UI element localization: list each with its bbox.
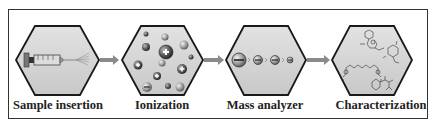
step-ionization-hexagon [122, 26, 203, 95]
step-mass-analyzer-hexagon [226, 26, 306, 95]
step-label-ionization: Ionization [135, 98, 189, 113]
step-characterization-hexagon [332, 26, 412, 95]
flow-arrow-3 [307, 55, 330, 65]
flow-arrow-2 [204, 55, 224, 65]
step-label-sample-insertion: Sample insertion [13, 98, 103, 113]
step-label-mass-analyzer: Mass analyzer [227, 98, 304, 113]
flow-arrow-1 [100, 55, 119, 65]
step-label-characterization: Characterization [336, 98, 427, 113]
step-sample-insertion-hexagon [16, 26, 99, 95]
